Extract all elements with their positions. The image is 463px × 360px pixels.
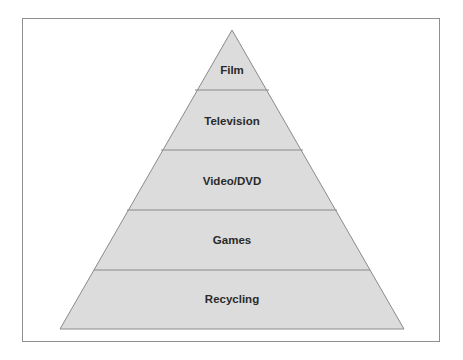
level-film: Film: [220, 64, 244, 76]
level-recycling: Recycling: [205, 293, 259, 305]
level-television: Television: [204, 115, 259, 127]
pyramid-diagram: Film Television Video/DVD Games Recyclin…: [0, 0, 463, 360]
level-video-dvd: Video/DVD: [203, 175, 262, 187]
level-games: Games: [213, 234, 251, 246]
